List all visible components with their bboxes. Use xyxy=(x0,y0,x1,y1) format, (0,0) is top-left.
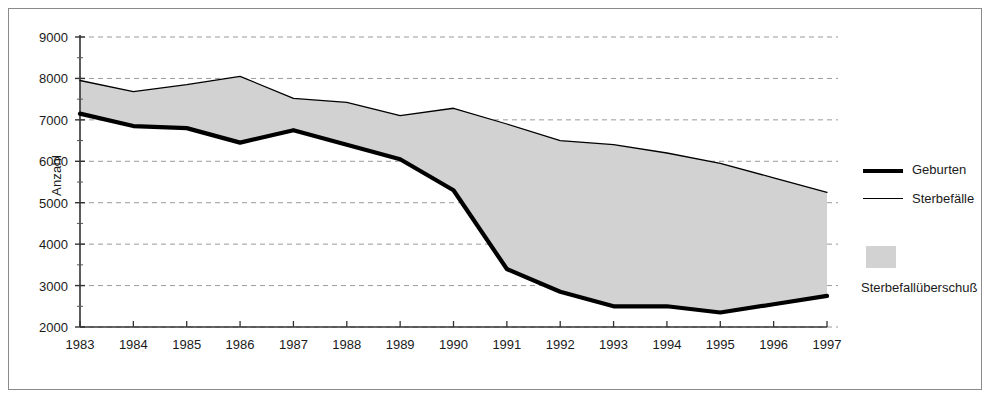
legend-marker-sterbefalluberschuss xyxy=(866,246,896,268)
x-tick-label: 1987 xyxy=(279,337,308,352)
y-tick-label: 8000 xyxy=(39,71,68,86)
x-tick-label: 1996 xyxy=(759,337,788,352)
x-tick-label: 1990 xyxy=(439,337,468,352)
y-tick-label: 2000 xyxy=(39,320,68,335)
x-tick-label: 1989 xyxy=(386,337,415,352)
x-tick-label: 1992 xyxy=(546,337,575,352)
legend-marker-geburten xyxy=(863,169,903,173)
x-tick-label: 1993 xyxy=(599,337,628,352)
y-tick-label: 3000 xyxy=(39,279,68,294)
y-tick-label: 4000 xyxy=(39,237,68,252)
legend-marker-sterbefaelle xyxy=(863,198,903,199)
x-tick-labels: 1983198419851986198719881989199019911992… xyxy=(66,337,842,352)
y-tick-label: 5000 xyxy=(39,196,68,211)
x-tick-label: 1983 xyxy=(66,337,95,352)
y-tick-label: 9000 xyxy=(39,30,68,45)
y-tick-labels: 90008000700060005000400030002000 xyxy=(39,30,68,335)
x-tick-label: 1997 xyxy=(813,337,842,352)
x-tick-label: 1995 xyxy=(706,337,735,352)
y-tick-label: 6000 xyxy=(39,154,68,169)
legend-label-geburten: Geburten xyxy=(912,162,966,177)
area-fill-sterbefalluberschuss xyxy=(80,76,827,312)
x-tick-label: 1984 xyxy=(119,337,148,352)
y-tick-label: 7000 xyxy=(39,113,68,128)
legend-label-sterbefaelle: Sterbefälle xyxy=(912,191,974,206)
x-tick-label: 1986 xyxy=(226,337,255,352)
x-tick-label: 1985 xyxy=(172,337,201,352)
x-tick-label: 1991 xyxy=(492,337,521,352)
chart-plot: 90008000700060005000400030002000 1983198… xyxy=(0,0,996,414)
x-tick-label: 1988 xyxy=(332,337,361,352)
x-tick-label: 1994 xyxy=(652,337,681,352)
figure-container: Anzahl 90008000700060005000400030002000 … xyxy=(0,0,996,414)
legend-label-sterbefalluberschuss: Sterbefallüberschuß xyxy=(861,280,977,295)
area-sterbefalluberschuss xyxy=(80,76,827,312)
